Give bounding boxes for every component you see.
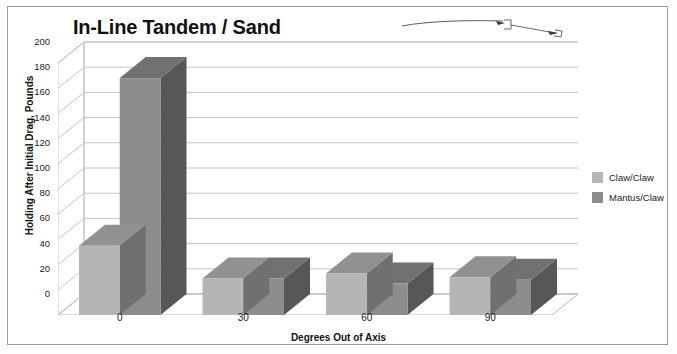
y-tick-label: 40	[20, 239, 50, 249]
y-tick-label: 20	[20, 264, 50, 274]
chart-title: In-Line Tandem / Sand	[73, 16, 281, 39]
legend-swatch-icon	[592, 172, 603, 183]
bar-front-face	[202, 278, 243, 315]
x-tick-label: 90	[468, 312, 512, 323]
y-tick-label: 100	[20, 163, 50, 173]
x-tick-label: 30	[221, 312, 265, 323]
x-axis-title: Degrees Out of Axis	[0, 332, 677, 343]
bar-claw-claw-0	[79, 225, 146, 315]
bar-side-face	[161, 57, 187, 315]
y-tick-label: 200	[20, 37, 50, 47]
legend-label: Claw/Claw	[609, 172, 654, 183]
y-tick-label: 80	[20, 188, 50, 198]
y-tick-label: 0	[20, 289, 50, 299]
bar-front-face	[326, 273, 367, 315]
bar-front-face	[79, 246, 120, 315]
chart-page: In-Line Tandem / Sand Holding After Init…	[0, 0, 677, 354]
x-tick-label: 60	[345, 312, 389, 323]
chart-legend: Claw/ClawMantus/Claw	[592, 172, 676, 212]
legend-item: Claw/Claw	[592, 172, 676, 183]
bar-front-face	[449, 277, 490, 315]
y-tick-label: 140	[20, 113, 50, 123]
x-tick-label: 0	[98, 312, 142, 323]
bars-svg	[58, 40, 578, 315]
plot-area	[58, 40, 578, 315]
bar-group-container	[58, 40, 578, 315]
legend-swatch-icon	[592, 192, 603, 203]
y-axis-tick-labels: 020406080100120140160180200	[0, 40, 50, 315]
y-tick-label: 120	[20, 138, 50, 148]
y-tick-label: 60	[20, 213, 50, 223]
y-tick-label: 180	[20, 62, 50, 72]
legend-item: Mantus/Claw	[592, 192, 676, 203]
x-axis-tick-labels: 0306090	[58, 312, 578, 328]
legend-label: Mantus/Claw	[609, 192, 664, 203]
y-tick-label: 160	[20, 87, 50, 97]
